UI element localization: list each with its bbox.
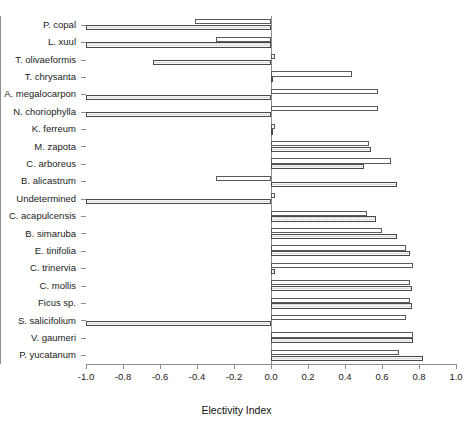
y-tick (81, 146, 86, 147)
bar (271, 263, 413, 268)
bar (271, 338, 413, 343)
chart-figure: P. copalL. xuulT. olivaeformisT. chrysan… (0, 0, 473, 436)
x-tick-label: 0.2 (301, 371, 314, 382)
x-tick-label: 0.0 (264, 371, 277, 382)
y-axis-line (0, 16, 1, 364)
y-tick (81, 129, 86, 130)
y-axis-tick-label: C. trinervia (30, 263, 76, 273)
bar (271, 147, 371, 152)
x-tick-label: -0.6 (152, 371, 168, 382)
x-tick (86, 364, 87, 369)
y-axis-tick-label: B. alicastrum (21, 176, 76, 186)
bar (271, 303, 412, 308)
y-tick (81, 77, 86, 78)
bar (271, 106, 378, 111)
bar (271, 228, 382, 233)
bar (216, 176, 272, 181)
bar (271, 245, 406, 250)
bar (86, 25, 271, 30)
y-tick (81, 303, 86, 304)
bar (271, 71, 352, 76)
y-axis-tick-label: E. tinifolia (35, 246, 76, 256)
bar (271, 332, 413, 337)
bar (271, 216, 376, 221)
y-axis-tick-label: B. simaruba (25, 229, 76, 239)
bar (271, 77, 273, 82)
y-axis-tick-label: K. ferreum (32, 124, 76, 134)
x-tick (271, 364, 272, 369)
bar (86, 42, 271, 47)
y-axis-tick-label: N. choriophylla (13, 107, 76, 117)
bar (86, 112, 271, 117)
x-tick (197, 364, 198, 369)
y-tick (81, 251, 86, 252)
bar (271, 280, 410, 285)
bar (86, 95, 271, 100)
bar (271, 129, 273, 134)
x-tick (123, 364, 124, 369)
bar (271, 164, 364, 169)
x-tick (234, 364, 235, 369)
y-tick (81, 233, 86, 234)
bar (271, 158, 391, 163)
plot-area (86, 16, 456, 364)
y-tick (81, 60, 86, 61)
x-tick-label: -0.2 (226, 371, 242, 382)
x-axis-title: Electivity Index (0, 404, 473, 416)
bar (271, 54, 275, 59)
y-axis-tick-label: T. chrysanta (25, 72, 76, 82)
x-tick (419, 364, 420, 369)
bar (271, 182, 397, 187)
bar (271, 211, 367, 216)
bar (271, 350, 399, 355)
x-tick (382, 364, 383, 369)
bar (271, 234, 397, 239)
x-tick (456, 364, 457, 369)
y-tick (81, 338, 86, 339)
bar (86, 321, 271, 326)
x-tick (308, 364, 309, 369)
x-tick-label: 0.8 (412, 371, 425, 382)
y-axis-tick-label: S. salicifolium (18, 316, 76, 326)
y-axis-tick-label: Undetermined (16, 194, 76, 204)
y-axis-tick-label: P. copal (43, 20, 76, 30)
bar (271, 298, 410, 303)
x-tick-label: -0.4 (189, 371, 205, 382)
y-tick (81, 355, 86, 356)
x-tick-label: -1.0 (78, 371, 94, 382)
y-tick (81, 164, 86, 165)
bar (271, 124, 275, 129)
x-tick-label: 1.0 (449, 371, 462, 382)
x-tick-label: 0.6 (375, 371, 388, 382)
y-tick (81, 286, 86, 287)
x-tick (160, 364, 161, 369)
y-axis-tick-label: C. acapulcensis (9, 211, 76, 221)
bar (271, 286, 412, 291)
y-axis-tick-label: C. arboreus (26, 159, 76, 169)
bar (271, 315, 406, 320)
bar (271, 141, 369, 146)
bar (271, 251, 410, 256)
y-axis-tick-label: A. megalocarpon (4, 89, 76, 99)
bar (271, 269, 275, 274)
bar (195, 19, 271, 24)
y-axis-tick-label: Ficus sp. (38, 298, 76, 308)
x-tick-label: -0.8 (115, 371, 131, 382)
y-axis-tick-label: V. gaumeri (31, 333, 76, 343)
y-axis-labels: P. copalL. xuulT. olivaeformisT. chrysan… (0, 0, 84, 436)
bar (216, 37, 272, 42)
bar (86, 199, 271, 204)
y-tick (81, 181, 86, 182)
y-axis-tick-label: C. mollis (40, 281, 76, 291)
y-axis-tick-label: M. zapota (34, 142, 76, 152)
bar (271, 356, 423, 361)
bar (153, 60, 271, 65)
x-tick-label: 0.4 (338, 371, 351, 382)
y-axis-tick-label: P. yucatanum (19, 350, 76, 360)
y-axis-tick-label: L. xuul (48, 37, 76, 47)
bar (271, 89, 378, 94)
y-tick (81, 268, 86, 269)
y-tick (81, 216, 86, 217)
bar (271, 193, 275, 198)
y-axis-tick-label: T. olivaeformis (15, 55, 76, 65)
